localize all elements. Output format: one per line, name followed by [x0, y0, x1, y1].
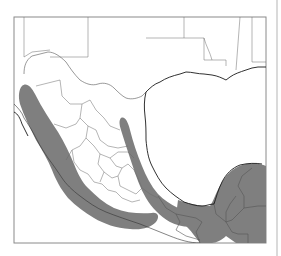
range-map-figure — [0, 0, 281, 256]
